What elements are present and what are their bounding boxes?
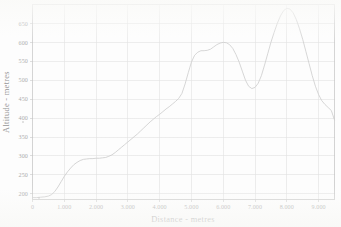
x-axis-tick-labels: 01.0002.0003.0004.0005.0006.0007.0008.00… — [31, 204, 326, 210]
chart-canvas: 01.0002.0003.0004.0005.0006.0007.0008.00… — [0, 0, 341, 227]
x-tick-label: 6.000 — [216, 204, 230, 210]
y-tick-label: 650 — [19, 21, 28, 27]
x-axis-title: Distance - metres — [151, 215, 215, 224]
x-tick-label: 3.000 — [121, 204, 135, 210]
y-tick-label: 600 — [19, 40, 28, 46]
altitude-profile-chart: 01.0002.0003.0004.0005.0006.0007.0008.00… — [0, 0, 341, 227]
x-tick-label: 9.000 — [311, 204, 325, 210]
plot-frame — [33, 5, 335, 200]
y-tick-label: 250 — [19, 172, 28, 178]
x-tick-label: 2.000 — [89, 204, 103, 210]
x-tick-label: 5.000 — [184, 204, 198, 210]
y-tick-label: 350 — [19, 134, 28, 140]
y-axis-title: Altitude - metres — [2, 71, 11, 133]
y-tick-label: 300 — [19, 153, 28, 159]
y-tick-label: 200 — [19, 191, 28, 197]
y-tick-label: 400 — [19, 115, 28, 121]
x-tick-label: 8.000 — [280, 204, 294, 210]
x-tick-label: 1.000 — [57, 204, 71, 210]
x-tick-label: 7.000 — [248, 204, 262, 210]
scan-speck — [22, 121, 24, 123]
y-tick-label: 500 — [19, 77, 28, 83]
scan-speck — [38, 197, 39, 198]
vertical-gridlines — [64, 5, 318, 200]
y-axis-tick-labels: 200250300350400450500550600650 — [19, 21, 28, 197]
x-tick-label: 4.000 — [153, 204, 167, 210]
altitude-series-line — [33, 8, 335, 197]
y-tick-label: 550 — [19, 58, 28, 64]
x-tick-label: 0 — [31, 204, 34, 210]
y-tick-label: 450 — [19, 96, 28, 102]
horizontal-gridlines — [33, 23, 335, 193]
